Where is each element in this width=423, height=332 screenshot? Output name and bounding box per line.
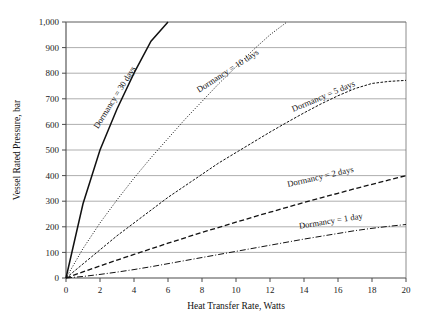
- x-tick-label-0: 0: [64, 285, 69, 295]
- x-tick-label-8: 8: [200, 285, 205, 295]
- x-tick-label-14: 14: [300, 285, 310, 295]
- y-tick-label-200: 200: [46, 222, 60, 232]
- x-tick-label-18: 18: [368, 285, 378, 295]
- x-axis-title: Heat Transfer Rate, Watts: [187, 301, 285, 311]
- y-tick-label-600: 600: [46, 120, 60, 130]
- y-tick-label-300: 300: [46, 196, 60, 206]
- curve-label-dormancy-2-days: Dormancy = 2 days: [286, 164, 355, 189]
- y-axis-title: Vessel Rated Pressure, bar: [12, 99, 22, 200]
- y-tick-label-400: 400: [46, 171, 60, 181]
- curve-dormancy-1-day: [66, 225, 406, 279]
- y-tick-label-900: 900: [46, 43, 60, 53]
- y-tick-label-1,000: 1,000: [39, 17, 60, 27]
- y-tick-label-800: 800: [46, 68, 60, 78]
- chart-figure: 01002003004005006007008009001,0000246810…: [0, 0, 423, 332]
- x-tick-label-16: 16: [334, 285, 344, 295]
- x-tick-label-10: 10: [232, 285, 242, 295]
- curve-label-dormancy-1-day: Dormancy = 1 day: [298, 211, 364, 231]
- y-tick-label-700: 700: [46, 94, 60, 104]
- x-tick-label-2: 2: [98, 285, 103, 295]
- vessel-rated-pressure-chart: 01002003004005006007008009001,0000246810…: [0, 0, 423, 332]
- x-tick-label-12: 12: [266, 285, 275, 295]
- y-tick-label-100: 100: [46, 248, 60, 258]
- y-tick-label-0: 0: [55, 273, 60, 283]
- curve-label-dormancy-10-days: Dormancy = 10 days: [195, 47, 261, 95]
- curve-label-dormancy-5-days: Dormancy = 5 days: [290, 78, 357, 114]
- x-tick-label-20: 20: [402, 285, 412, 295]
- y-tick-label-500: 500: [46, 145, 60, 155]
- x-tick-label-6: 6: [166, 285, 171, 295]
- x-tick-label-4: 4: [132, 285, 137, 295]
